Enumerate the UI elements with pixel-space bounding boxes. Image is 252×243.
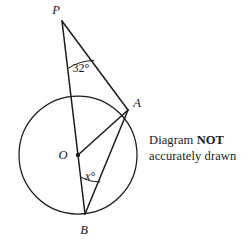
vertex-label-o: O: [58, 148, 67, 162]
segment-ab: [85, 110, 128, 214]
segment-oa: [78, 110, 128, 155]
note-line-1: Diagram NOT: [149, 133, 252, 149]
angle-label-32-degrees: 32°: [73, 61, 90, 75]
vertex-label-a: A: [132, 96, 141, 110]
angle-label-x-degrees: x°: [84, 169, 95, 183]
vertex-label-p: P: [51, 3, 60, 17]
centre-point-dot: [76, 153, 80, 157]
note-line-1-prefix: Diagram: [149, 133, 197, 147]
vertex-label-b: B: [80, 223, 88, 237]
note-line-2: accurately drawn: [149, 149, 252, 165]
not-accurately-drawn-note: Diagram NOT accurately drawn: [149, 133, 252, 164]
note-line-1-emphasis: NOT: [197, 133, 224, 147]
geometry-figure: P A B O 32° x°: [0, 0, 252, 243]
diagram-page: P A B O 32° x° Diagram NOT accurately dr…: [0, 0, 252, 243]
segment-pb: [62, 21, 85, 214]
